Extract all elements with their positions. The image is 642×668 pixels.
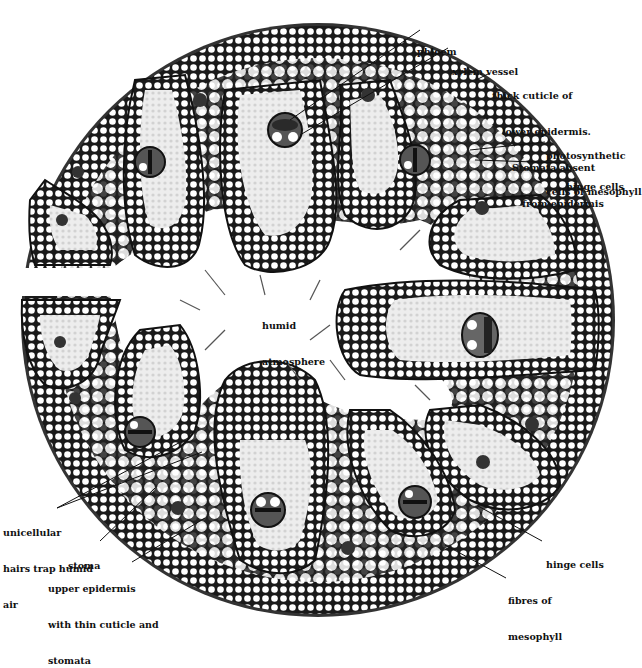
leaf-margin-gap <box>0 268 120 296</box>
vascular-bundle <box>400 145 430 175</box>
label-humid-atmosphere: humid atmosphere <box>262 296 325 392</box>
vascular-bundle <box>399 486 431 518</box>
label-phloem: phloem <box>417 22 457 82</box>
vascular-bundle <box>462 313 498 357</box>
vascular-bundle <box>251 493 285 527</box>
vascular-bundle <box>268 113 302 147</box>
vascular-bundle <box>125 417 155 447</box>
label-hinge-cells-top: hinge cells <box>566 157 624 217</box>
label-upper-epidermis: upper epidermis with thin cuticle and st… <box>48 559 159 668</box>
label-fibres-of-mesophyll: fibres of mesophyll <box>508 571 562 667</box>
vascular-bundle <box>135 147 165 177</box>
